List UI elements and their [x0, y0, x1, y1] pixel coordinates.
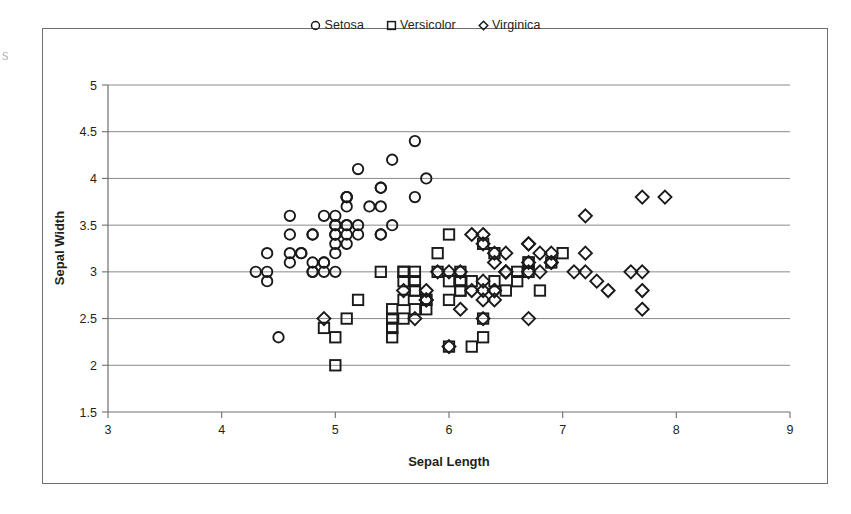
circle-icon — [310, 20, 321, 31]
legend-item-versicolor: Versicolor — [386, 18, 456, 32]
square-icon — [386, 20, 397, 31]
legend-label-setosa: Setosa — [324, 18, 364, 32]
legend-label-versicolor: Versicolor — [400, 18, 456, 32]
legend-item-virginica: Virginica — [478, 18, 541, 32]
scan-edge-artifact: s — [2, 44, 11, 66]
chart-legend: Setosa Versicolor Virginica — [0, 18, 851, 32]
chart-frame — [42, 28, 828, 484]
diamond-icon — [478, 20, 489, 31]
legend-label-virginica: Virginica — [492, 18, 541, 32]
legend-item-setosa: Setosa — [310, 18, 364, 32]
